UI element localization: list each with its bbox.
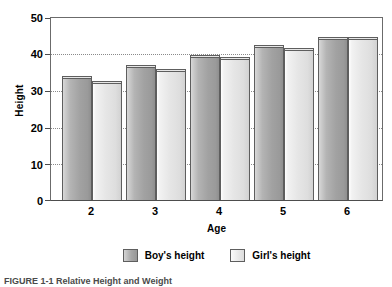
bar-boy-age-4[interactable] (190, 55, 220, 200)
bar-top-cap (190, 55, 220, 58)
x-tick-label-4: 4 (189, 205, 249, 217)
bar-top-cap (318, 37, 348, 40)
bar-girl-age-5[interactable] (284, 48, 314, 200)
legend-label-boys-height: Boy's height (145, 250, 205, 261)
bar-group-age-3 (126, 65, 186, 200)
bar-group-age-6 (318, 37, 378, 200)
boy-swatch-icon (123, 249, 138, 262)
y-tick-label-10: 10 (10, 160, 43, 170)
y-tick-label-20: 20 (10, 123, 43, 133)
legend-item-boys-height[interactable]: Boy's height (123, 249, 205, 262)
y-tick-label-40: 40 (10, 49, 43, 59)
figure-caption-label: FIGURE 1-1 (4, 276, 54, 286)
y-tick-label-50: 50 (10, 13, 43, 23)
x-axis-title: Age (50, 223, 383, 234)
bar-boy-age-6[interactable] (318, 37, 348, 200)
bar-top-cap (284, 48, 314, 51)
bar-girl-age-2[interactable] (92, 81, 122, 200)
bar-girl-age-3[interactable] (156, 69, 186, 200)
x-tick-label-6: 6 (317, 205, 377, 217)
bar-boy-age-5[interactable] (254, 45, 284, 200)
y-tick-label-30: 30 (10, 86, 43, 96)
legend-label-girls-height: Girl's height (252, 250, 310, 261)
bar-top-cap (126, 65, 156, 68)
bar-top-cap (62, 76, 92, 79)
bar-top-cap (92, 81, 122, 84)
y-axis-title: Height (14, 71, 25, 131)
girl-swatch-icon (230, 249, 245, 262)
bar-boy-age-2[interactable] (62, 76, 92, 200)
x-tick-label-5: 5 (253, 205, 313, 217)
figure-caption: FIGURE 1-1 Relative Height and Weight (4, 276, 384, 287)
figure-caption-text: Relative Height and Weight (56, 276, 172, 286)
legend-item-girls-height[interactable]: Girl's height (230, 249, 310, 262)
y-tick-label-0: 0 (10, 196, 43, 206)
x-tick-label-3: 3 (125, 205, 185, 217)
bar-top-cap (220, 57, 250, 60)
bar-top-cap (254, 45, 284, 48)
bar-top-cap (348, 37, 378, 40)
chart-legend: Boy's height Girl's height (50, 249, 383, 262)
bar-girl-age-6[interactable] (348, 37, 378, 200)
bar-group-age-2 (62, 76, 122, 200)
bar-girl-age-4[interactable] (220, 57, 250, 200)
bar-top-cap (156, 69, 186, 72)
bar-chart: Height 50 40 30 20 10 0 (0, 0, 392, 287)
bar-group-age-4 (190, 55, 250, 200)
bar-boy-age-3[interactable] (126, 65, 156, 200)
bar-group-age-5 (254, 45, 314, 200)
x-tick-label-2: 2 (61, 205, 121, 217)
plot-area (50, 17, 383, 201)
